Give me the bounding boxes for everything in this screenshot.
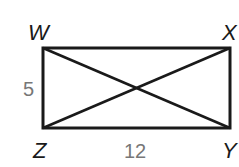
rectangle-diagram: W X Y Z 5 12: [0, 0, 239, 167]
side-length-zy: 12: [124, 140, 146, 162]
side-length-wz: 5: [23, 78, 34, 100]
vertex-label-z: Z: [32, 138, 48, 163]
vertex-label-y: Y: [222, 138, 238, 163]
vertex-label-w: W: [28, 20, 51, 45]
vertex-label-x: X: [221, 20, 238, 45]
